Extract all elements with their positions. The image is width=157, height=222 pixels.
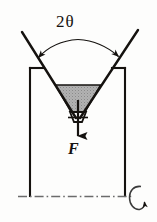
angle-arc-right-half [78,40,119,57]
diagram-canvas [0,0,157,222]
physics-diagram-figure: 2θ F [0,0,157,222]
rotation-arrow-ellipse [130,186,145,209]
cone-right-arm [80,30,138,118]
force-label: F [68,141,79,157]
rotation-arrow [130,186,145,209]
angle-arc-arrow [39,40,119,58]
apex-angle-label: 2θ [56,13,75,30]
angle-arc-left-half [39,40,79,58]
